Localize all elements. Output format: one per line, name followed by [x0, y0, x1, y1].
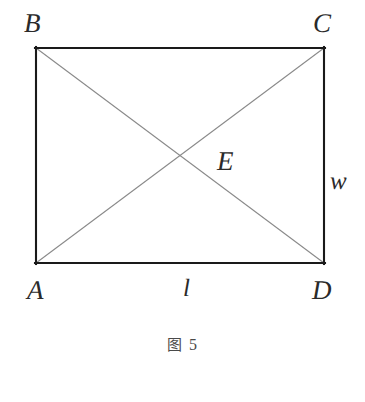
vertex-label-B: B [24, 10, 41, 37]
figure-caption-prefix: 图 [167, 336, 183, 354]
side-label-l: l [183, 276, 190, 301]
side-label-w: w [330, 169, 347, 194]
figure-caption-number: 5 [189, 336, 198, 353]
figure-canvas: B C E w A l D 图 5 [0, 0, 365, 402]
vertex-label-D: D [312, 277, 332, 304]
vertex-label-C: C [313, 10, 331, 37]
intersection-label-E: E [217, 148, 234, 175]
figure-caption: 图 5 [0, 334, 365, 356]
vertex-label-A: A [27, 277, 44, 304]
